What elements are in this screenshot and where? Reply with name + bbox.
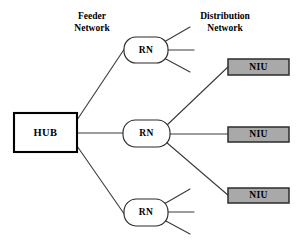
stub-link-rn-top-3 bbox=[164, 58, 190, 72]
stub-link-rn-bottom-1 bbox=[164, 189, 190, 204]
rn-node-top[interactable]: RN bbox=[124, 37, 168, 63]
feeder-network-label-line1: Feeder bbox=[56, 11, 128, 23]
feeder-link-hub-to-rn-bottom bbox=[77, 146, 127, 218]
stub-link-rn-bottom-3 bbox=[164, 220, 190, 234]
rn-bottom-label: RN bbox=[139, 207, 153, 217]
rn-middle-label: RN bbox=[139, 128, 153, 138]
distribution-link-rn-to-niu-top bbox=[166, 66, 229, 126]
niu-top-label: NIU bbox=[249, 62, 267, 72]
hub-node[interactable]: HUB bbox=[14, 113, 77, 152]
niu-bottom-label: NIU bbox=[249, 190, 267, 200]
niu-middle-label: NIU bbox=[249, 129, 267, 139]
feeder-network-label: Feeder Network bbox=[56, 11, 128, 34]
rn-top-label: RN bbox=[139, 45, 153, 55]
feeder-link-group bbox=[77, 45, 127, 218]
niu-node-top[interactable]: NIU bbox=[228, 59, 289, 75]
distribution-network-label: Distribution Network bbox=[182, 11, 268, 34]
feeder-link-hub-to-rn-top bbox=[77, 45, 127, 120]
rn-node-middle[interactable]: RN bbox=[123, 120, 170, 147]
distribution-link-group bbox=[166, 66, 229, 196]
diagram-canvas: HUB RN RN RN NIU NIU NIU bbox=[0, 0, 299, 242]
distribution-network-label-line2: Network bbox=[182, 23, 268, 35]
distribution-network-label-line1: Distribution bbox=[182, 11, 268, 23]
hub-label: HUB bbox=[34, 127, 58, 138]
network-diagram: HUB RN RN RN NIU NIU NIU F bbox=[0, 0, 299, 242]
rn-node-bottom[interactable]: RN bbox=[124, 199, 168, 226]
niu-node-middle[interactable]: NIU bbox=[228, 127, 289, 142]
niu-node-bottom[interactable]: NIU bbox=[228, 188, 289, 203]
distribution-link-rn-to-niu-bottom bbox=[166, 142, 229, 196]
feeder-network-label-line2: Network bbox=[56, 23, 128, 35]
